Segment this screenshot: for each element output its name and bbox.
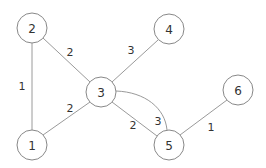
node-label-6: 6 [234, 84, 242, 98]
edge-5-6 [180, 100, 227, 135]
edge-label-3-5-curved: 3 [155, 115, 162, 128]
edge-4-3 [112, 40, 158, 82]
node-label-4: 4 [165, 23, 173, 37]
weighted-graph: 1 2 3 2 3 2 1 1 2 3 4 5 6 [0, 0, 266, 168]
node-label-1: 1 [28, 139, 36, 153]
edge-label-1-3: 2 [67, 102, 74, 115]
edge-labels: 1 2 3 2 3 2 1 [19, 44, 215, 134]
node-2: 2 [17, 13, 47, 43]
node-1: 1 [17, 130, 47, 160]
node-label-3: 3 [97, 86, 105, 100]
edge-label-5-6: 1 [208, 121, 215, 134]
node-3: 3 [86, 77, 116, 107]
node-6: 6 [223, 75, 253, 105]
node-4: 4 [154, 14, 184, 44]
node-label-2: 2 [28, 22, 36, 36]
edge-label-3-5-straight: 2 [130, 119, 137, 132]
edge-label-4-3: 3 [128, 44, 135, 57]
node-label-5: 5 [165, 139, 173, 153]
nodes: 1 2 3 4 5 6 [17, 13, 253, 160]
edge-label-2-1: 1 [19, 80, 26, 93]
edge-label-2-3: 2 [67, 46, 74, 59]
node-5: 5 [154, 130, 184, 160]
